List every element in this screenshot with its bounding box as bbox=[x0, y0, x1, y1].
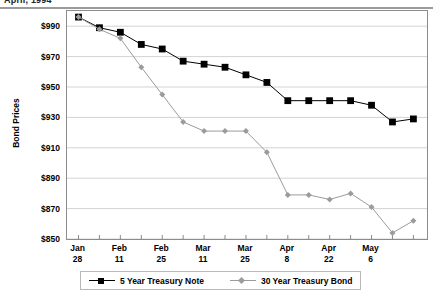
data-point-diamond bbox=[306, 192, 312, 198]
y-axis-tick-label: $890 bbox=[14, 173, 60, 183]
y-axis-tick-label: $910 bbox=[14, 143, 60, 153]
chart-legend: 5 Year Treasury Note 30 Year Treasury Bo… bbox=[80, 271, 361, 290]
data-point-square bbox=[222, 64, 229, 71]
x-tick-month: Apr bbox=[279, 243, 294, 253]
bond-prices-line-chart: April, 1994 Bond Prices $850$870$890$910… bbox=[0, 0, 433, 294]
x-axis-tick-labels: Jan28Feb11Feb25Mar11Mar25Apr8Apr22May6 bbox=[66, 243, 428, 269]
x-axis-ticks bbox=[79, 235, 414, 239]
data-point-square bbox=[138, 41, 145, 48]
y-axis-tick-label: $970 bbox=[14, 52, 60, 62]
data-point-square bbox=[159, 46, 166, 53]
y-axis-tick-label: $870 bbox=[14, 204, 60, 214]
plot-area bbox=[66, 10, 428, 240]
x-tick-month: May bbox=[362, 243, 379, 253]
data-point-square bbox=[243, 71, 250, 78]
title-divider bbox=[0, 7, 433, 9]
x-tick-month: Jan bbox=[70, 243, 85, 253]
data-point-diamond bbox=[348, 190, 354, 196]
data-point-square bbox=[201, 61, 208, 68]
x-tick-month: Apr bbox=[321, 243, 336, 253]
y-axis-tick-labels: $850$870$890$910$930$950$970$990 bbox=[14, 30, 60, 246]
data-point-square bbox=[263, 79, 270, 86]
data-point-square bbox=[368, 102, 375, 109]
data-point-diamond bbox=[285, 192, 291, 198]
data-point-diamond bbox=[327, 196, 333, 202]
data-point-square bbox=[389, 119, 396, 126]
data-point-square bbox=[305, 97, 312, 104]
square-marker-icon bbox=[89, 276, 115, 286]
legend-item-30-year-treasury-bond: 30 Year Treasury Bond bbox=[230, 276, 353, 286]
series-line bbox=[79, 17, 414, 122]
data-point-square bbox=[326, 97, 333, 104]
data-point-square bbox=[117, 29, 124, 36]
legend-item-5-year-treasury-note: 5 Year Treasury Note bbox=[89, 276, 204, 286]
x-tick-month: Feb bbox=[154, 243, 169, 253]
plot-svg bbox=[67, 11, 427, 239]
series-line bbox=[79, 17, 414, 233]
legend-label: 30 Year Treasury Bond bbox=[261, 276, 353, 286]
x-tick-day: 6 bbox=[345, 254, 397, 265]
data-point-diamond bbox=[201, 128, 207, 134]
data-point-diamond bbox=[222, 128, 228, 134]
x-axis-tick-label: May6 bbox=[345, 243, 397, 265]
data-point-square bbox=[347, 97, 354, 104]
data-point-square bbox=[284, 97, 291, 104]
x-tick-month: Feb bbox=[112, 243, 127, 253]
diamond-marker-icon bbox=[230, 276, 256, 286]
x-tick-month: Mar bbox=[196, 243, 211, 253]
chart-title: April, 1994 bbox=[4, 0, 52, 5]
data-point-diamond bbox=[410, 218, 416, 224]
y-axis-tick-label: $950 bbox=[14, 82, 60, 92]
data-point-square bbox=[410, 116, 417, 123]
y-axis-tick-label: $930 bbox=[14, 112, 60, 122]
legend-label: 5 Year Treasury Note bbox=[120, 276, 204, 286]
series-layer bbox=[75, 14, 417, 236]
x-tick-month: Mar bbox=[237, 243, 252, 253]
data-point-square bbox=[180, 58, 187, 65]
y-axis-tick-label: $990 bbox=[14, 21, 60, 31]
